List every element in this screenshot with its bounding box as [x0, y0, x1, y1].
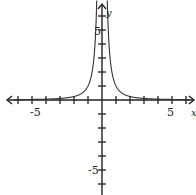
- y-tick-label-5: 5: [94, 25, 101, 38]
- x-tick-label-neg5: -5: [30, 106, 41, 119]
- y-axis-label: y: [105, 7, 112, 18]
- x-tick-label-5: 5: [167, 106, 174, 119]
- graph: -5 5 5 -5 y x: [0, 0, 196, 195]
- y-tick-label-neg5: -5: [88, 164, 99, 177]
- curve-right-branch: [107, 0, 190, 99]
- x-axis-label: x: [191, 107, 196, 118]
- curve-left-branch: [14, 0, 97, 99]
